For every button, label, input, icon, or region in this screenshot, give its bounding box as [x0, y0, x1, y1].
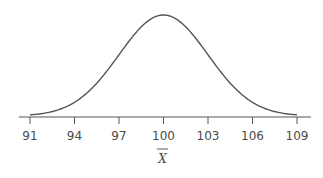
x-axis-title-text: X [157, 152, 167, 166]
x-tick-label: 109 [286, 129, 309, 143]
x-tick-label: 94 [67, 129, 82, 143]
x-tick-label: 106 [241, 129, 264, 143]
normal-curve-chart: 919497100103106109 X [0, 0, 323, 178]
x-axis-tick-labels: 919497100103106109 [22, 129, 308, 143]
x-axis-title: X [157, 149, 168, 166]
x-axis-ticks [30, 117, 297, 124]
normal-curve [30, 15, 297, 115]
x-tick-label: 97 [111, 129, 126, 143]
x-tick-label: 100 [152, 129, 175, 143]
x-tick-label: 91 [22, 129, 37, 143]
x-tick-label: 103 [197, 129, 220, 143]
